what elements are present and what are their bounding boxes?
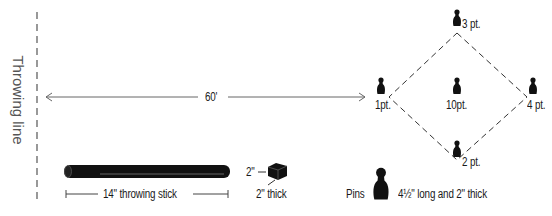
pin-icon-2pt: [453, 140, 461, 157]
distance-label: 60': [205, 90, 217, 104]
pin-label-2pt: 2 pt.: [462, 155, 480, 169]
pin-label-3pt: 3 pt.: [462, 17, 480, 31]
block-side-label: 2": [246, 165, 255, 179]
pin-icon-4pt: [529, 77, 537, 94]
block-thickness-leader: [268, 180, 275, 185]
block-thickness-label: 2" thick: [256, 187, 287, 201]
block-icon: [268, 163, 287, 180]
throwing-stick-icon: [64, 165, 230, 178]
pin-icon-3pt: [453, 9, 461, 26]
pin-legend-icon: [373, 168, 388, 200]
pin-icon-1pt: [377, 77, 385, 94]
pin-icon-10pt: [453, 77, 461, 94]
throwing-line-label: Throwing line: [10, 55, 27, 144]
pin-label-10pt: 10pt.: [446, 98, 467, 112]
pin-label-4pt: 4 pt.: [527, 98, 545, 112]
stick-label: 14" throwing stick: [103, 187, 177, 201]
diagram-graphics: [0, 0, 552, 216]
pin-label-1pt: 1pt.: [375, 98, 391, 112]
pins-legend-label: Pins: [346, 187, 364, 201]
pins-legend-description: 4½" long and 2" thick: [398, 187, 487, 201]
